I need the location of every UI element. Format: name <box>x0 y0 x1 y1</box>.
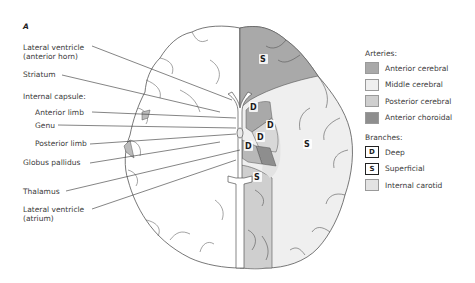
swatch-middle-cerebral <box>365 79 379 91</box>
label-lateral-ventricle-atrium: Lateral ventricle (atrium) <box>23 205 84 223</box>
label-thalamus: Thalamus <box>23 187 60 196</box>
swatch-posterior-cerebral <box>365 95 379 107</box>
legend-item-superficial: S Superficial <box>365 161 475 178</box>
legend-item-anterior-choroidal: Anterior choroidal <box>365 110 475 127</box>
legend-item-anterior-cerebral: Anterior cerebral <box>365 60 475 77</box>
swatch-anterior-choroidal <box>365 112 379 124</box>
legend: Arteries: Anterior cerebral Middle cereb… <box>365 48 475 194</box>
left-hemisphere <box>125 26 240 268</box>
legend-item-posterior-cerebral: Posterior cerebral <box>365 93 475 110</box>
swatch-internal-carotid <box>365 179 379 191</box>
swatch-superficial: S <box>365 163 379 175</box>
label-internal-capsule: Internal capsule: <box>23 92 86 101</box>
legend-item-internal-carotid: Internal carotid <box>365 177 475 194</box>
label-globus-pallidus: Globus pallidus <box>23 158 80 167</box>
superficial-letter-posterior: S <box>254 173 260 182</box>
legend-item-middle-cerebral: Middle cerebral <box>365 77 475 94</box>
label-striatum: Striatum <box>23 70 55 79</box>
legend-item-deep: D Deep <box>365 144 475 161</box>
label-lateral-ventricle-anterior-horn: Lateral ventricle (anterior horn) <box>23 43 84 61</box>
deep-letter-1: D <box>250 103 257 112</box>
deep-letter-3: D <box>257 133 264 142</box>
legend-branches-title: Branches: <box>365 132 475 144</box>
legend-arteries-title: Arteries: <box>365 48 475 60</box>
deep-letter-2: D <box>267 121 274 130</box>
label-genu: Genu <box>35 121 55 130</box>
deep-letter-4: D <box>245 142 252 151</box>
superficial-letter-middle: S <box>304 140 310 149</box>
swatch-anterior-cerebral <box>365 62 379 74</box>
label-posterior-limb: Posterior limb <box>35 139 87 148</box>
label-anterior-limb: Anterior limb <box>35 108 84 117</box>
superficial-letter-anterior: S <box>260 55 266 64</box>
swatch-deep: D <box>365 146 379 158</box>
